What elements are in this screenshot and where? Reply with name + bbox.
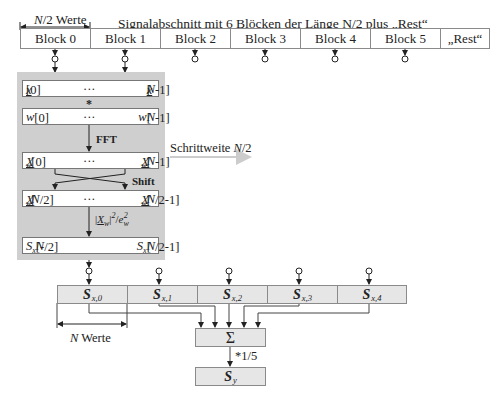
spectrum-block-4: Sx,4 — [337, 285, 407, 304]
sum-box: Σ — [195, 328, 266, 347]
averaged-spectrum-box: Sy — [195, 367, 266, 386]
spectrum-block-0: Sx,0 — [57, 285, 128, 304]
spectrum-block-3: Sx,3 — [267, 285, 338, 304]
n-values-label: N Werte — [70, 332, 111, 345]
spectrum-block-2: Sx,2 — [197, 285, 268, 304]
spectrum-block-1: Sx,1 — [127, 285, 198, 304]
scale-label: *1/5 — [235, 350, 257, 363]
